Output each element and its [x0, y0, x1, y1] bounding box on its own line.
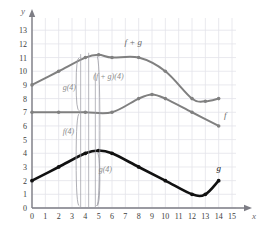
data-point-fg: [217, 97, 221, 101]
data-point-g: [217, 179, 221, 183]
x-tick-label: 5: [97, 212, 101, 221]
annotation-g-at-4-low: g(4): [99, 165, 113, 174]
y-tick-label: 6: [23, 122, 27, 131]
y-tick-label: 10: [19, 67, 27, 76]
data-point-fg: [204, 100, 208, 104]
data-point-f: [30, 110, 34, 114]
data-point-fg: [137, 56, 141, 60]
x-tick-label: 1: [43, 212, 47, 221]
x-tick-label: 12: [188, 212, 196, 221]
y-tick-label: 11: [19, 54, 27, 63]
data-point-g: [110, 151, 114, 155]
x-tick-label: 14: [215, 212, 223, 221]
brace-f-at-4: [76, 114, 79, 206]
data-point-f: [164, 97, 168, 101]
y-tick-label: 3: [23, 163, 27, 172]
annotation-g-at-4: g(4): [63, 83, 77, 92]
data-point-fg: [110, 56, 114, 60]
curve-label-g: g: [216, 163, 221, 173]
data-point-g: [203, 192, 207, 196]
y-tick-label: 2: [23, 177, 27, 186]
x-tick-label: 9: [150, 212, 154, 221]
x-tick-label: 8: [137, 212, 141, 221]
y-tick-label: 5: [23, 136, 27, 145]
function-graph: 0123456789101112131415012345678910111213…: [0, 0, 261, 233]
y-tick-label: 7: [23, 108, 27, 117]
x-axis-arrow: [244, 205, 252, 211]
x-tick-label: 11: [175, 212, 183, 221]
data-point-fg: [164, 69, 168, 73]
y-axis-label: y: [20, 6, 25, 16]
data-point-g: [57, 165, 61, 169]
x-tick-label: 6: [110, 212, 114, 221]
y-tick-label: 12: [19, 40, 27, 49]
data-point-f: [84, 110, 88, 114]
data-point-f: [150, 93, 154, 97]
data-point-f: [217, 124, 221, 128]
y-tick-label: 4: [23, 149, 27, 158]
y-tick-label: 9: [23, 81, 27, 90]
x-tick-label: 15: [228, 212, 236, 221]
data-point-g: [190, 192, 194, 196]
annotation-f-at-4: f(4): [63, 127, 75, 136]
y-tick-label: 8: [23, 95, 27, 104]
x-tick-label: 3: [70, 212, 74, 221]
data-point-fg: [30, 83, 34, 87]
x-tick-label: 13: [201, 212, 209, 221]
data-point-f: [190, 110, 194, 114]
data-point-fg: [57, 69, 61, 73]
data-point-g: [163, 179, 167, 183]
x-axis-label: x: [251, 211, 256, 221]
x-tick-label: 7: [123, 212, 127, 221]
data-point-f: [57, 110, 61, 114]
x-tick-label: 2: [57, 212, 61, 221]
data-point-fg: [190, 97, 194, 101]
x-tick-label: 10: [161, 212, 169, 221]
data-point-g: [83, 151, 87, 155]
y-tick-label: 1: [23, 190, 27, 199]
plot-svg: 0123456789101112131415012345678910111213…: [0, 0, 261, 233]
data-point-g: [30, 179, 34, 183]
x-tick-label: 4: [83, 212, 87, 221]
data-point-f: [137, 97, 141, 101]
y-tick-label: 13: [19, 26, 27, 35]
data-point-g: [137, 165, 141, 169]
data-point-f: [110, 110, 114, 114]
y-axis-arrow: [29, 9, 35, 17]
curve-label-f-plus-g: f + g: [125, 37, 143, 47]
brace-g-at-4: [76, 58, 79, 111]
data-point-fg: [84, 56, 88, 60]
curve-label-f: f: [224, 110, 228, 120]
annotation-sum-at-4: (f + g)(4): [93, 72, 124, 81]
x-tick-label: 0: [30, 212, 34, 221]
y-tick-label: 0: [23, 204, 27, 213]
